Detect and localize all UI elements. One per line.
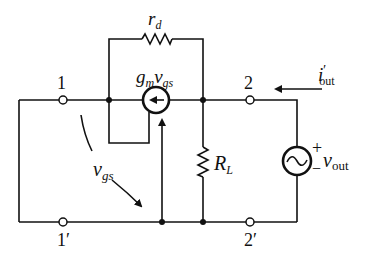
terminal-2 (246, 96, 254, 104)
terminal-1-prime (59, 218, 67, 226)
label-iout: i′out (318, 63, 335, 88)
vgs-curve-upper (81, 115, 92, 151)
wire-source-loop (109, 100, 149, 143)
junction-dot-left-top (106, 97, 112, 103)
wire-rd-branch-right (172, 39, 203, 100)
label-rd: rd (148, 8, 162, 32)
dependent-current-source (143, 87, 169, 113)
label-plus-sign: + (312, 138, 322, 158)
label-node-2: 2 (244, 73, 253, 93)
label-vgs: vgs (93, 158, 113, 183)
junction-dot-rl-bottom (200, 219, 206, 225)
circuit-diagram: 1 1′ 2 2′ rd gmvgs i′out vgs RL + − vout (0, 0, 368, 262)
terminal-2-prime (246, 218, 254, 226)
label-node-1: 1 (57, 73, 66, 93)
ac-voltage-source (283, 147, 311, 175)
vgs-arrow (112, 180, 141, 206)
label-node-1-prime: 1′ (57, 230, 70, 250)
junction-dot-gate-bottom (159, 219, 165, 225)
label-rl: RL (213, 152, 233, 177)
junction-dot-right-top (200, 97, 206, 103)
terminal-1 (59, 96, 67, 104)
label-node-2-prime: 2′ (244, 230, 257, 250)
resistor-rl (198, 147, 208, 177)
label-minus-sign: − (312, 160, 321, 177)
label-vout: vout (323, 149, 349, 173)
label-gm-vgs: gmvgs (136, 66, 174, 90)
wire-top-right (254, 100, 297, 147)
resistor-rd (142, 34, 172, 44)
